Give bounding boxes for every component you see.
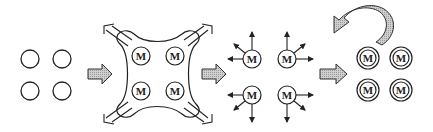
return-curved-arrow-icon: [334, 6, 394, 45]
m-label: M: [396, 52, 407, 64]
stage-1-empty-circles: [21, 50, 71, 100]
emission-arrow-icon: [234, 101, 245, 110]
m-label: M: [247, 89, 258, 101]
membrane-outline: [117, 31, 199, 118]
empty-circle: [21, 50, 39, 68]
emission-arrow-icon: [294, 101, 305, 110]
emission-arrow-icon: [234, 44, 245, 53]
m-label: M: [136, 50, 147, 62]
empty-circle: [21, 82, 39, 100]
m-label: M: [170, 85, 181, 97]
transition-arrow-icon: [202, 64, 226, 84]
transition-arrow-icon: [320, 64, 347, 84]
process-diagram: M M M M: [0, 0, 433, 132]
emission-arrow-icon: [294, 44, 305, 53]
m-label: M: [282, 89, 293, 101]
stage-2-membrane: M M M M: [104, 24, 212, 124]
m-label: M: [136, 85, 147, 97]
m-label: M: [363, 84, 374, 96]
stage-4-double-ring: M M M M: [357, 47, 412, 101]
m-label: M: [396, 84, 407, 96]
empty-circle: [53, 50, 71, 68]
m-label: M: [363, 52, 374, 64]
empty-circle: [53, 82, 71, 100]
stage-3-emitting: M M M M: [228, 32, 313, 122]
m-label: M: [282, 53, 293, 65]
m-label: M: [247, 53, 258, 65]
transition-arrow-icon: [88, 64, 112, 84]
m-label: M: [170, 50, 181, 62]
